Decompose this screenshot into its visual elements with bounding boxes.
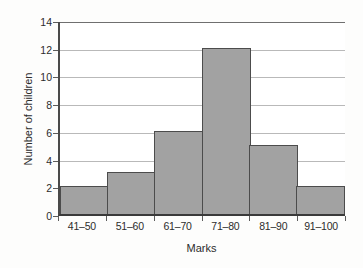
bar[interactable]	[249, 145, 298, 214]
bar[interactable]	[107, 172, 156, 214]
x-axis-title: Marks	[58, 242, 345, 254]
y-tick-label: 0	[12, 211, 52, 222]
plot-area	[58, 22, 345, 216]
x-tick-mark	[345, 216, 346, 221]
x-tick-label: 51–60	[106, 220, 154, 233]
x-tick-label: 61–70	[154, 220, 202, 233]
y-axis-title: Number of children	[22, 39, 34, 199]
y-tick-label: 14	[12, 17, 52, 28]
bar[interactable]	[202, 48, 251, 214]
histogram-figure: 02468101214 41–5051–6061–7071–8081–9091–…	[0, 0, 363, 268]
bar[interactable]	[60, 186, 109, 214]
x-tick-label: 41–50	[58, 220, 106, 233]
x-tick-label: 91–100	[297, 220, 345, 233]
bars-layer	[60, 22, 345, 214]
x-tick-label: 71–80	[201, 220, 249, 233]
x-tick-label: 81–90	[249, 220, 297, 233]
bar[interactable]	[296, 186, 345, 214]
x-axis-tick-labels: 41–5051–6061–7071–8081–9091–100	[58, 220, 345, 233]
bar[interactable]	[154, 131, 203, 214]
